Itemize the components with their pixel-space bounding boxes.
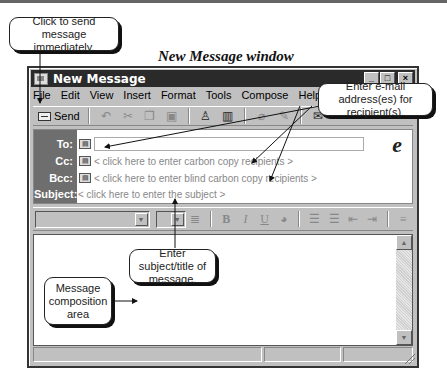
bullet-list-icon[interactable]: ☰ bbox=[327, 212, 340, 227]
message-header: To: ▤ Cc: ▤ < click here to enter carbon… bbox=[33, 129, 413, 204]
resize-grip-icon[interactable] bbox=[403, 352, 415, 364]
font-select[interactable]: ▼ bbox=[35, 211, 150, 228]
toolbar-separator bbox=[387, 211, 389, 227]
bcc-field[interactable]: < click here to enter blind carbon copy … bbox=[94, 173, 317, 184]
toolbar-separator bbox=[244, 108, 246, 124]
menu-view[interactable]: View bbox=[90, 89, 114, 105]
callout-recipients: Enter e-mail address(es) for recipient(s… bbox=[318, 83, 433, 116]
attach-icon[interactable]: ⌀ bbox=[254, 109, 270, 123]
status-bar bbox=[31, 346, 415, 364]
send-label: Send bbox=[54, 110, 80, 122]
menu-insert[interactable]: Insert bbox=[123, 89, 151, 105]
underline-button[interactable]: U bbox=[258, 212, 271, 227]
toolbar-separator bbox=[188, 108, 190, 124]
menu-format[interactable]: Format bbox=[161, 89, 196, 105]
cc-label: Cc: bbox=[34, 155, 75, 167]
toolbar-separator bbox=[88, 108, 90, 124]
check-names-icon[interactable]: ♙ bbox=[198, 109, 214, 123]
undo-icon[interactable]: ↶ bbox=[98, 109, 114, 123]
menu-compose[interactable]: Compose bbox=[241, 89, 288, 105]
scroll-up-button[interactable]: ▲ bbox=[396, 235, 412, 250]
menu-tools[interactable]: Tools bbox=[206, 89, 232, 105]
address-book-icon[interactable]: ▥ bbox=[220, 109, 236, 123]
toolbar-separator bbox=[298, 211, 300, 227]
callout-composition: Message composition area bbox=[44, 277, 112, 325]
top-rule bbox=[0, 0, 447, 3]
cc-row: Cc: ▤ < click here to enter carbon copy … bbox=[34, 153, 412, 169]
status-pane bbox=[33, 347, 262, 362]
internet-explorer-logo: e bbox=[392, 132, 402, 158]
numbered-list-icon[interactable]: ☰ bbox=[308, 212, 321, 227]
send-button[interactable]: Send bbox=[35, 110, 83, 122]
font-color-icon[interactable]: ◕ bbox=[277, 212, 290, 227]
new-message-app-icon bbox=[34, 73, 48, 85]
to-row: To: ▤ bbox=[34, 136, 412, 152]
sign-icon[interactable]: ✎ bbox=[276, 109, 292, 123]
send-icon bbox=[38, 112, 51, 121]
vertical-scrollbar[interactable]: ▲ ▼ bbox=[396, 235, 412, 345]
decrease-indent-icon[interactable]: ⇤ bbox=[347, 212, 360, 227]
format-toolbar: ▼ ▼ ≣ B I U ◕ ☰ ☰ ⇤ ⇥ ≡ bbox=[33, 207, 413, 231]
status-pane bbox=[264, 347, 341, 362]
to-field[interactable] bbox=[94, 137, 364, 151]
menu-edit[interactable]: Edit bbox=[61, 89, 80, 105]
subject-field[interactable]: < click here to enter the subject > bbox=[78, 189, 225, 200]
menu-bar: File Edit View Insert Format Tools Compo… bbox=[33, 89, 331, 105]
subject-label: Subject: bbox=[34, 188, 75, 200]
menu-file[interactable]: File bbox=[33, 89, 51, 105]
chevron-down-icon[interactable]: ▼ bbox=[135, 213, 148, 226]
bold-button[interactable]: B bbox=[220, 212, 233, 227]
italic-button[interactable]: I bbox=[239, 212, 252, 227]
font-size-select[interactable]: ▼ bbox=[156, 211, 186, 228]
increase-indent-icon[interactable]: ⇥ bbox=[366, 212, 379, 227]
bcc-label: Bcc: bbox=[34, 172, 75, 184]
address-book-icon[interactable]: ▤ bbox=[79, 156, 91, 166]
chevron-down-icon[interactable]: ▼ bbox=[171, 213, 184, 226]
align-left-icon[interactable]: ≡ bbox=[397, 212, 410, 227]
subject-row: Subject: < click here to enter the subje… bbox=[34, 186, 412, 202]
to-label: To: bbox=[34, 138, 75, 150]
toolbar-separator bbox=[210, 211, 212, 227]
scroll-down-button[interactable]: ▼ bbox=[396, 330, 412, 345]
callout-subject: Enter subject/title of message. bbox=[129, 249, 216, 283]
toolbar-separator bbox=[300, 108, 302, 124]
cut-icon[interactable]: ✂ bbox=[120, 109, 136, 123]
callout-send: Click to send message immediately. bbox=[9, 17, 119, 51]
cc-field[interactable]: < click here to enter carbon copy recipi… bbox=[94, 156, 293, 167]
window-title: New Message bbox=[53, 72, 146, 86]
paragraph-style-icon[interactable]: ≣ bbox=[189, 212, 202, 227]
address-book-icon[interactable]: ▤ bbox=[79, 139, 91, 149]
address-book-icon[interactable]: ▤ bbox=[79, 173, 91, 183]
copy-icon[interactable]: ❐ bbox=[142, 109, 158, 123]
paste-icon[interactable]: ▣ bbox=[164, 109, 180, 123]
bcc-row: Bcc: ▤ < click here to enter blind carbo… bbox=[34, 170, 412, 186]
figure-caption: New Message window bbox=[158, 48, 294, 65]
